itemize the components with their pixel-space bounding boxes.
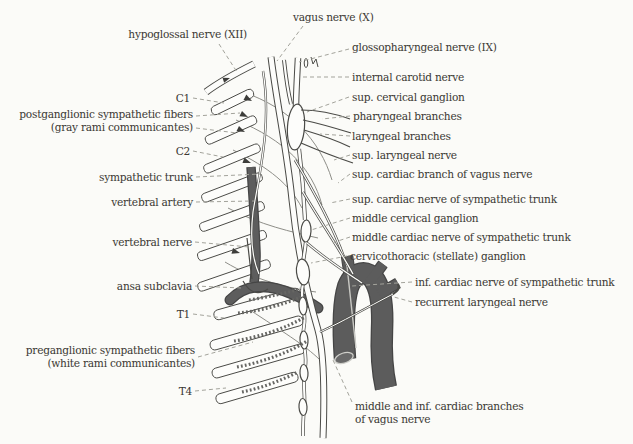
label-sup-cardiac-branch-vagus: sup. cardiac branch of vagus nerve [352,168,532,181]
leader-postganglionic-fibers [196,128,237,133]
leader-vertebral-artery [196,201,254,202]
leader-c1 [193,98,224,103]
label-glossopharyngeal-nerve: glossopharyngeal nerve (IX) [352,41,497,54]
leader-sup-cervical-ganglion [307,97,349,112]
leader-sup-cardiac-nerve-symp [330,199,350,203]
leader-sympathetic-trunk [196,174,260,177]
label-c1: C1 [176,92,190,105]
label-middle-cervical-ganglion: middle cervical ganglion [352,212,478,225]
leader-middle-inf-cardiac-branches-vagus [333,360,352,402]
leader-vertebral-nerve [195,242,249,247]
leader-laryngeal-branches [320,134,350,136]
label-vagus-nerve: vagus nerve (X) [293,11,374,24]
label-preganglionic-fibers: preganglionic sympathetic fibers (white … [26,344,195,371]
leader-sup-laryngeal-nerve [334,155,350,160]
label-laryngeal-branches: laryngeal branches [352,130,451,143]
leader-preganglionic-fibers [198,342,253,357]
label-sup-cardiac-nerve-symp: sup. cardiac nerve of sympathetic trunk [352,193,557,206]
label-c2: C2 [176,145,190,158]
label-middle-inf-cardiac-branches-vagus: middle and inf. cardiac branches of vagu… [355,400,523,427]
anatomy-diagram: vagus nerve (X)hypoglossal nerve (XII)gl… [0,0,633,444]
label-t1: T1 [177,308,190,321]
leader-lines [0,0,633,444]
leader-middle-cervical-ganglion [311,218,350,230]
label-t4: T4 [179,385,192,398]
leader-c2 [193,151,223,157]
label-pharyngeal-branches: pharyngeal branches [353,110,462,123]
leader-cervicothoracic-ganglion [311,256,347,263]
leader-middle-cardiac-nerve-symp [332,237,350,243]
leader-t1 [193,314,224,318]
label-inf-cardiac-nerve-symp: inf. cardiac nerve of sympathetic trunk [415,276,615,289]
label-ansa-subclavia: ansa subclavia [117,280,192,293]
label-postganglionic-fibers: postganglionic sympathetic fibers (gray … [19,108,193,135]
leader-hypoglossal-nerve [219,44,237,72]
label-vertebral-nerve: vertebral nerve [113,236,192,249]
leader-sup-cardiac-branch-vagus [338,174,350,183]
label-middle-cardiac-nerve-symp: middle cardiac nerve of sympathetic trun… [352,231,571,244]
label-sup-cervical-ganglion: sup. cervical ganglion [352,91,465,104]
leader-inf-cardiac-nerve-symp [352,282,412,286]
leader-pharyngeal-branches [322,116,350,119]
leader-vagus-nerve [277,26,303,61]
label-hypoglossal-nerve: hypoglossal nerve (XII) [128,28,247,41]
label-recurrent-laryngeal-nerve: recurrent laryngeal nerve [415,296,548,309]
leader-glossopharyngeal-nerve [299,49,349,62]
label-sympathetic-trunk: sympathetic trunk [99,171,193,184]
leader-postganglionic-fibers [196,113,240,116]
leader-t4 [195,388,226,391]
label-vertebral-artery: vertebral artery [111,196,193,209]
label-sup-laryngeal-nerve: sup. laryngeal nerve [352,149,457,162]
label-internal-carotid-nerve: internal carotid nerve [352,71,464,84]
label-cervicothoracic-ganglion: cervicothoracic (stellate) ganglion [350,250,526,263]
leader-recurrent-laryngeal-nerve [394,297,412,302]
leader-ansa-subclavia [195,286,242,288]
